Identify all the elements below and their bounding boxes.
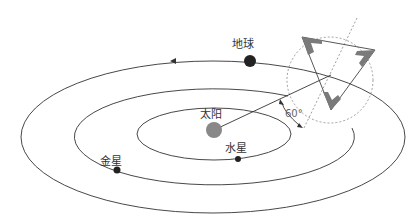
earth (244, 55, 256, 67)
angle-arrow-top-icon (279, 99, 284, 105)
mercury (235, 156, 241, 162)
sun-label: 太阳 (200, 108, 222, 121)
venus-label: 金星 (100, 154, 122, 168)
triangle-corner-left (302, 37, 322, 55)
solar-system-diagram: 60° 太阳 地球 水星 金星 (0, 0, 418, 223)
triangle-detector (302, 37, 375, 110)
mercury-label: 水星 (225, 142, 247, 155)
sun (206, 122, 222, 138)
triangle-corner-bottom (323, 92, 341, 110)
dashed-normal-line (304, 18, 357, 128)
earth-label: 地球 (232, 37, 254, 51)
sun-to-detector-line (214, 75, 331, 130)
angle-label: 60° (285, 108, 303, 119)
triangle-corner-right (355, 50, 375, 67)
